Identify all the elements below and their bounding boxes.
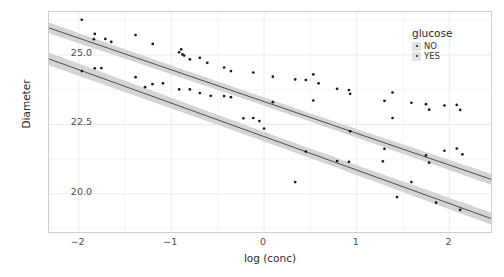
legend-item-no[interactable]: NO	[412, 42, 452, 51]
x-tick-label: −1	[156, 236, 184, 247]
data-point	[180, 48, 183, 51]
data-point	[206, 61, 209, 64]
data-point	[252, 71, 255, 74]
data-point	[443, 149, 446, 152]
legend: glucose NO YES	[412, 28, 452, 62]
data-point	[93, 38, 96, 41]
data-point	[294, 181, 297, 184]
data-point	[383, 147, 386, 150]
data-point	[258, 120, 261, 123]
data-point	[461, 153, 464, 156]
data-point	[312, 99, 315, 102]
chart-figure: 20.022.525.0 −2−1012 Diameter log (conc)…	[0, 0, 504, 277]
data-point	[391, 117, 394, 120]
data-point	[410, 101, 413, 104]
data-point	[134, 34, 137, 37]
data-point	[317, 82, 320, 85]
data-point	[263, 127, 266, 130]
data-point	[93, 33, 96, 36]
data-point	[183, 54, 186, 57]
data-point	[209, 94, 212, 97]
legend-title: glucose	[412, 28, 452, 39]
data-point	[151, 83, 154, 86]
data-point	[396, 196, 399, 199]
data-point	[178, 88, 181, 91]
data-point	[428, 161, 431, 164]
data-point	[272, 101, 275, 104]
y-tick-label: 25.0	[52, 47, 92, 58]
data-point	[252, 117, 255, 120]
data-point	[425, 103, 428, 106]
data-point	[104, 38, 107, 41]
data-point	[100, 67, 103, 70]
legend-key-no	[412, 42, 421, 51]
points-no	[80, 18, 461, 111]
data-point	[223, 95, 226, 98]
y-axis-title: Diameter	[20, 44, 32, 164]
data-point	[435, 201, 438, 204]
x-tick-label: 0	[249, 236, 277, 247]
data-point	[383, 99, 386, 102]
data-point	[134, 76, 137, 79]
data-point	[80, 70, 83, 73]
data-point	[349, 130, 352, 133]
data-point	[178, 51, 181, 54]
data-point	[312, 73, 315, 76]
data-point	[93, 67, 96, 70]
x-tick-label: 1	[342, 236, 370, 247]
x-axis-title: log (conc)	[48, 252, 492, 264]
legend-key-yes	[412, 52, 421, 61]
legend-item-yes[interactable]: YES	[412, 52, 452, 61]
data-point	[455, 147, 458, 150]
data-point	[425, 154, 428, 157]
data-point	[410, 181, 413, 184]
data-point	[223, 66, 226, 69]
data-point	[198, 92, 201, 95]
data-point	[151, 43, 154, 46]
data-point	[443, 104, 446, 107]
data-point	[459, 209, 462, 212]
x-tick-label: 2	[434, 236, 462, 247]
y-tick-label: 20.0	[52, 186, 92, 197]
data-point	[294, 78, 297, 81]
legend-label-no: NO	[424, 42, 437, 51]
data-point	[230, 96, 233, 99]
data-point	[336, 160, 339, 163]
data-point	[391, 91, 394, 94]
data-point	[230, 70, 233, 73]
data-point	[272, 75, 275, 78]
data-point	[455, 104, 458, 107]
data-point	[428, 108, 431, 111]
data-point	[348, 161, 351, 164]
data-point	[144, 86, 147, 89]
data-point	[305, 150, 308, 153]
data-point	[459, 109, 462, 112]
data-point	[189, 88, 192, 91]
data-point	[189, 58, 192, 61]
data-point	[349, 93, 352, 96]
data-point	[382, 160, 385, 163]
data-point	[80, 18, 83, 21]
legend-label-yes: YES	[424, 52, 440, 61]
data-point	[305, 79, 308, 82]
x-tick-label: −2	[64, 236, 92, 247]
data-point	[110, 41, 113, 44]
data-point	[242, 117, 245, 120]
y-tick-label: 22.5	[52, 116, 92, 127]
fit-line-yes	[49, 59, 492, 219]
data-point	[336, 88, 339, 91]
data-point	[162, 82, 165, 85]
data-point	[198, 56, 201, 59]
data-point	[348, 89, 351, 92]
